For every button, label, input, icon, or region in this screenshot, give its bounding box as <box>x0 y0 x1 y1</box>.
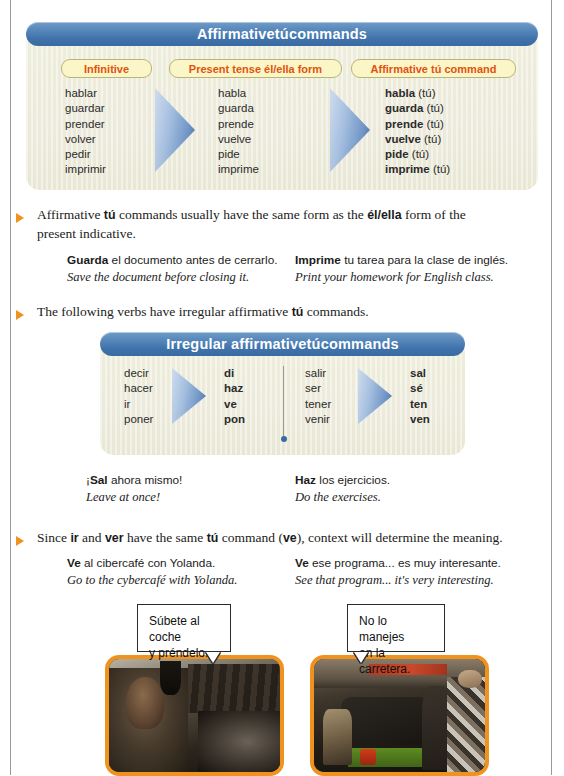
infinitive-list: hablar guardar prender volver pedir impr… <box>65 86 155 178</box>
command-suffix: (tú) <box>427 102 444 114</box>
list-item: vuelve (tú) <box>385 132 515 147</box>
command-suffix: (tú) <box>433 163 450 175</box>
present-tense-list: habla guarda prende vuelve pide imprime <box>218 86 318 178</box>
command-word: guarda <box>385 102 423 114</box>
command-word: imprime <box>385 163 430 175</box>
list-item: imprime <box>218 162 318 177</box>
list-item: prende (tú) <box>385 117 515 132</box>
bullet-paragraph-1: Affirmative tú commands usually have the… <box>37 206 507 242</box>
list-item: hablar <box>65 86 155 101</box>
bullet-marker-2-icon <box>16 310 24 320</box>
list-item: habla (tú) <box>385 86 515 101</box>
example-spanish: Ve al cibercafé con Yolanda. <box>67 556 237 571</box>
list-item: tener <box>305 397 365 412</box>
column-header-infinitive: Infinitive <box>61 59 152 78</box>
photo-mechanic-workbench-image <box>109 659 280 772</box>
affirmative-command-list: habla (tú) guarda (tú) prende (tú) vuelv… <box>385 86 515 178</box>
irregular-banner-post: commands <box>321 336 399 352</box>
example-group-3-left: Ve al cibercafé con Yolanda. Go to the c… <box>67 556 237 588</box>
list-item: pon <box>224 412 274 427</box>
example-spanish-rest: ese programa... es muy interesante. <box>309 556 501 570</box>
example-spanish: Imprime tu tarea para la clase de inglés… <box>295 253 508 268</box>
list-item: habla <box>218 86 318 101</box>
list-item: pide (tú) <box>385 147 515 162</box>
example-spanish-rest: ahora mismo! <box>108 473 183 487</box>
banner-title-em: tú <box>275 26 289 42</box>
page-rule-right <box>551 0 552 775</box>
example-english: Save the document before closing it. <box>67 269 278 285</box>
bullet-3-text-2: and <box>79 530 105 545</box>
column-header-present-tense: Present tense él/ella form <box>169 59 342 78</box>
irregular-table-divider <box>283 366 284 436</box>
bullet-3-text-5: ), context will determine the meaning. <box>297 530 503 545</box>
bullet-3-bold-2: ver <box>105 531 124 545</box>
list-item: vuelve <box>218 132 318 147</box>
example-spanish-bold: Sal <box>90 473 108 487</box>
example-group-3-right: Ve ese programa... es muy interesante. S… <box>295 556 501 588</box>
example-spanish-bold: Ve <box>67 556 81 570</box>
bullet-3-text-3: have the same <box>124 530 207 545</box>
list-item: prende <box>218 117 318 132</box>
list-item: ser <box>305 381 365 396</box>
irregular-table-divider-dot-icon <box>281 436 287 442</box>
command-suffix: (tú) <box>427 118 444 130</box>
example-spanish: Ve ese programa... es muy interesante. <box>295 556 501 571</box>
example-spanish: Haz los ejercicios. <box>295 473 390 488</box>
command-word: habla <box>385 87 415 99</box>
example-english: Do the exercises. <box>295 489 390 505</box>
list-item: imprime (tú) <box>385 162 515 177</box>
column-header-present-tense-label: Present tense él/ella form <box>189 63 322 75</box>
list-item: haz <box>224 381 274 396</box>
banner-title-post: commands <box>289 26 367 42</box>
list-item: guarda (tú) <box>385 101 515 116</box>
bullet-3-bold-1: ir <box>70 531 78 545</box>
banner-title-pre: Affirmative <box>197 26 275 42</box>
irregular-left-command-list: di haz ve pon <box>224 366 274 427</box>
example-spanish-rest: al cibercafé con Yolanda. <box>81 556 215 570</box>
list-item: ir <box>124 397 184 412</box>
example-spanish-bold: Guarda <box>67 253 108 267</box>
command-suffix: (tú) <box>418 87 435 99</box>
list-item: volver <box>65 132 155 147</box>
bullet-3-text-4: command ( <box>218 530 282 545</box>
example-english: Leave at once! <box>86 489 182 505</box>
list-item: guardar <box>65 101 155 116</box>
irregular-table-banner: Irregular affirmative tú commands <box>100 332 465 356</box>
speech-bubble-right-line2: en la carretera. <box>359 645 434 677</box>
list-item: guarda <box>218 101 318 116</box>
command-word: prende <box>385 118 423 130</box>
column-header-affirmative-command: Affirmative tú command <box>351 59 516 78</box>
example-group-2-left: ¡Sal ahora mismo! Leave at once! <box>86 473 182 505</box>
list-item: ven <box>410 412 460 427</box>
irregular-banner-pre: Irregular affirmative <box>166 336 306 352</box>
speech-bubble-right: No lo manejes en la carretera. <box>347 604 445 652</box>
example-group-1-right: Imprime tu tarea para la clase de inglés… <box>295 253 508 285</box>
list-item: ten <box>410 397 460 412</box>
list-item: pide <box>218 147 318 162</box>
list-item: ve <box>224 397 274 412</box>
example-spanish-bold: Imprime <box>295 253 341 267</box>
bullet-1-bold-1: tú <box>104 208 116 222</box>
speech-bubble-right-tail-icon <box>354 652 368 663</box>
bullet-paragraph-2: The following verbs have irregular affir… <box>37 303 507 322</box>
column-header-infinitive-label: Infinitive <box>84 63 129 75</box>
list-item: hacer <box>124 381 184 396</box>
list-item: imprimir <box>65 162 155 177</box>
example-spanish: Guarda el documento antes de cerrarlo. <box>67 253 278 268</box>
speech-bubble-left-line1: Súbete al coche <box>149 613 220 645</box>
bullet-marker-1-icon <box>16 213 24 223</box>
affirmative-table-banner: Affirmative tú commands <box>26 22 538 46</box>
command-word: pide <box>385 148 409 160</box>
command-suffix: (tú) <box>412 148 429 160</box>
list-item: pedir <box>65 147 155 162</box>
page-rule-left <box>10 0 11 775</box>
bullet-3-bold-3: tú <box>207 531 219 545</box>
example-spanish-bold: Haz <box>295 473 316 487</box>
bullet-2-text-1: The following verbs have irregular affir… <box>37 304 292 319</box>
example-spanish: ¡Sal ahora mismo! <box>86 473 182 488</box>
example-english: Go to the cybercafé with Yolanda. <box>67 572 237 588</box>
irregular-right-command-list: sal sé ten ven <box>410 366 460 427</box>
bullet-paragraph-3: Since ir and ver have the same tú comman… <box>37 529 537 548</box>
example-spanish-bold: Ve <box>295 556 309 570</box>
